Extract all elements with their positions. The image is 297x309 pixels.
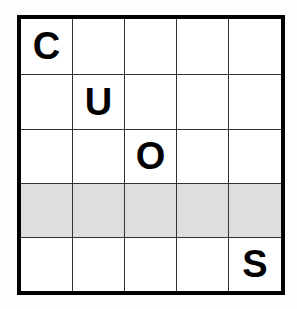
- grid-cell-r0-c3[interactable]: [177, 19, 229, 75]
- grid-cell-r1-c2[interactable]: [125, 75, 177, 130]
- grid-cell-r2-c0[interactable]: [21, 130, 73, 184]
- grid-cell-r2-c4[interactable]: [229, 130, 281, 184]
- grid-cell-r3-c4[interactable]: [229, 184, 281, 238]
- grid-cell-r4-c0[interactable]: [21, 238, 73, 291]
- grid-cell-r2-c3[interactable]: [177, 130, 229, 184]
- grid-cell-r4-c1[interactable]: [73, 238, 125, 291]
- grid-cell-r3-c2[interactable]: [125, 184, 177, 238]
- puzzle-grid: CUOS: [17, 15, 285, 295]
- grid-cell-r4-c2[interactable]: [125, 238, 177, 291]
- grid-cell-r2-c2[interactable]: O: [125, 130, 177, 184]
- grid-cell-r1-c3[interactable]: [177, 75, 229, 130]
- grid-cell-r2-c1[interactable]: [73, 130, 125, 184]
- grid-cell-r1-c0[interactable]: [21, 75, 73, 130]
- grid-cell-r0-c4[interactable]: [229, 19, 281, 75]
- grid-cell-r4-c4[interactable]: S: [229, 238, 281, 291]
- grid-cell-r3-c0[interactable]: [21, 184, 73, 238]
- grid-cell-r0-c0[interactable]: C: [21, 19, 73, 75]
- grid-cell-r3-c1[interactable]: [73, 184, 125, 238]
- grid-cell-r0-c1[interactable]: [73, 19, 125, 75]
- grid-cell-r1-c4[interactable]: [229, 75, 281, 130]
- grid-cell-r0-c2[interactable]: [125, 19, 177, 75]
- grid-cell-r3-c3[interactable]: [177, 184, 229, 238]
- grid-cell-r1-c1[interactable]: U: [73, 75, 125, 130]
- grid-cell-r4-c3[interactable]: [177, 238, 229, 291]
